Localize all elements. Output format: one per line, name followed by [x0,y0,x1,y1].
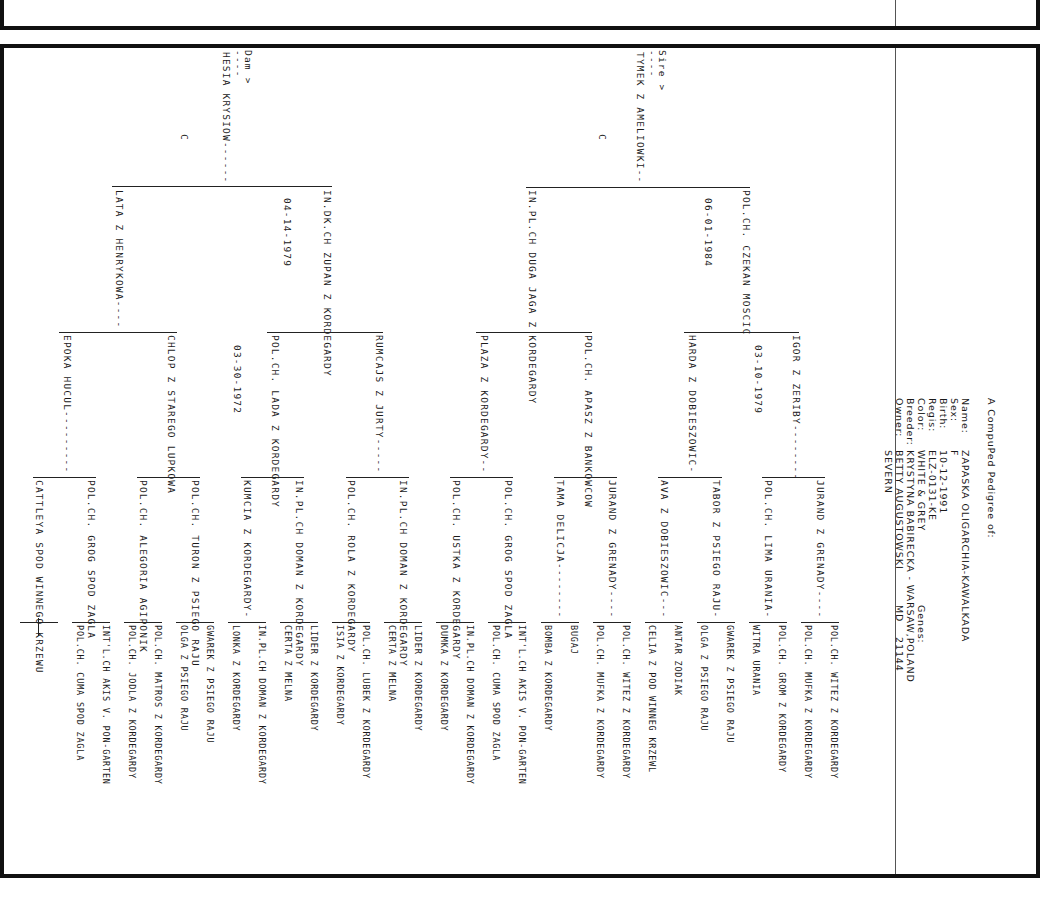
gen4-9: POL.CH. ROLA Z KORDEGARDY [346,480,356,653]
connector-g4-8 [384,622,422,623]
gen5-29: POL.CH. CUMA SPOD ZAGLA [76,625,84,761]
previous-page-divider [895,0,896,26]
connector-g3-4 [346,477,409,478]
gen5-15: DUMKA Z KORDEGARDY [440,625,448,732]
gen5-28: INT'L.CH AKIS V. PON-GARTEN [102,625,110,785]
gen5-23: LONKA Z KORDEGARDY [232,625,240,732]
gen3-6: CHLOP Z STAREGO LUPKOWA [166,335,176,494]
previous-page-frame [0,0,1040,30]
connector-g2-2 [267,332,383,333]
gen5-2: POL.CH. GROM Z KORDEGARDY [778,625,786,773]
connector-g4-6 [488,622,526,623]
connector-g3-5 [241,477,304,478]
gen4-2: TABOR Z PSIEGO RAJU- [711,480,721,618]
gen3-2: POL.CH. APASZ Z BANKOWCOW [583,335,593,508]
gen3-5: POL.CH. LADA Z KORDEGARDY [270,335,280,508]
gen3-0: IGOR Z ZERIBY-------- [791,335,801,480]
value-birth: 10-12-1991 [937,450,948,514]
gen4-6: POL.CH. GROG SPOD ZAGLA [503,480,513,639]
gen5-0: POL.CH. WITEZ Z KORDEGARDY [830,625,838,779]
connector-g4-15 [20,622,58,623]
value-owner-line2: SEVERN [882,450,893,494]
gen4-3: AVA Z DOBIESZOWIC--- [659,480,669,618]
label-sex: Sex: [948,398,959,422]
connector-g3-3 [450,477,513,478]
gen5-7: CELIA Z POD WINNEG KRZEWL [648,625,656,773]
gen5-20: LIDER Z KORDEGARDY [310,625,318,732]
value-zip: 21144 [893,637,904,672]
genes-label: Genes: [915,605,926,644]
sire-color-code: C [597,134,607,141]
sire-name: TYMEK Z AMELIOWKI-- [635,52,645,183]
connector-g3-0 [762,477,825,478]
value-name: ZAPASKA OLIGARCHIA-KAWALKADA [959,450,970,642]
label-breeder: Breeder: [904,398,915,446]
dam-label: Dam > [243,50,253,85]
gen3-0-date: 03-10-1979 [753,345,763,414]
gen5-12: INT'L.CH AKIS V. PON-GARTEN [518,625,526,785]
gen3-5-date: 03-30-1972 [232,345,242,414]
connector-dam [112,186,332,187]
value-regis: ELZ-0131-KE [926,450,937,521]
connector-g4-4 [593,622,631,623]
connector-g4-1 [749,622,787,623]
dam-dashes: ---- [233,50,243,78]
gen4-14: POL.CH. GROG SPOD ZAGLA [86,480,96,639]
connector-g2-0 [684,332,799,333]
gen2-sire-sire-date: 06-01-1984 [703,198,713,267]
gen5-10: BUGAJ [570,625,578,655]
connector-g4-14 [72,622,110,623]
pedigree-title: A CompuPed Pedigree of: [985,398,996,539]
gen5-8: POL.CH. WITEZ Z KORDEGARDY [622,625,630,779]
gen5-16: LIDER Z KORDEGARDY [414,625,422,732]
gen4-12: POL.CH. TURON Z PSIEGO RAJU [190,480,200,667]
gen5-17: CERTA Z MELNA [388,625,396,702]
connector-g4-0 [801,622,839,623]
gen5-4: GWAREK Z PSIEGO RAJU [726,625,734,743]
gen5-1: POL.CH. MUFKA Z KORDEGARDY [804,625,812,779]
gen3-3: PLAZA Z KORDEGARDY-- [479,335,489,473]
gen4-0: JURAND Z GRENADY---- [815,480,825,618]
gen5-25: OLGA Z PSIEGO RAJU [180,625,188,732]
connector-g2-3 [59,332,177,333]
value-breeder: KRYSTYNA BABIRECKA - WARSAW,POLAND [904,450,915,683]
value-sex: F [948,450,959,456]
value-state: MD [893,605,904,622]
label-name: Name: [959,398,970,434]
gen5-5: OLGA Z PSIEGO RAJU [700,625,708,732]
connector-g3-2 [554,477,617,478]
connector-g4-3 [645,622,683,623]
connector-g4-10 [280,622,318,623]
label-color: Color: [915,398,926,431]
gen5-24: GWAREK Z PSIEGO RAJU [206,625,214,743]
dam-color-code: C [179,134,189,141]
connector-g4-11 [228,622,266,623]
gen3-4: RUMCAJS Z JURTY----- [374,335,384,473]
gen5-19: ISIA Z KORDEGARDY [336,625,344,726]
gen3-7: EPOKA HUCUL--------- [62,335,72,473]
gen2-dam-sire-date: 04-14-1979 [282,198,292,267]
sire-label: Sire > [657,50,667,92]
connector-sire [526,187,750,188]
connector-g4-2 [697,622,735,623]
connector-g4-13 [124,622,162,623]
gen2-dam-dam: LATA Z HENRYKOWA---- [114,190,124,328]
value-color: WHITE & GREY [915,450,926,531]
gen5-26: POL.CH. MATROS Z KORDEGARDY [154,625,162,785]
gen5-27: POL.CH. JODLA Z KORDEGARDY [128,625,136,779]
gen4-10: IN.PL.CH DOMAN Z KORDEGARDY [294,480,304,667]
sire-dashes: ---- [647,50,657,78]
gen4-15: CATTLEYA SPOD WINNEGO KRZEWU [34,480,44,674]
connector-g3-7 [33,477,96,478]
gen4-13: POL.CH. ALEGORIA AGIPONIK [138,480,148,653]
gen5-9: POL.CH. MUFKA Z KORDEGARDY [596,625,604,779]
gen5-14: IN.PL.CH DOMAN Z KORDEGARDY [466,625,474,785]
label-birth: Birth: [937,398,948,429]
dam-name: HESIA KRYSIOW------ [221,52,231,183]
gen5-21: CERTA Z MELNA [284,625,292,702]
gen5-13: POL.CH. CUMA SPOD ZAGLA [492,625,500,761]
label-owner: Owner: [893,398,904,437]
gen5-3: WITRA URANIA [752,625,760,696]
gen5-11: BOMBA Z KORDEGARDY [544,625,552,732]
gen2-sire-sire: POL.CH. CZEKAN MOSCIC [741,190,751,335]
